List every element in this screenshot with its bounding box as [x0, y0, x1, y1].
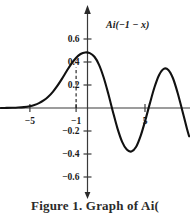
x-tick-label-neg5: −5 — [25, 116, 35, 126]
plot-background — [0, 0, 190, 200]
y-tick-label-neg0.2: −0.2 — [62, 126, 80, 136]
plot-svg: 0.6 0.4 0.2 −0.2 −0.4 −0.6 −5 −1 5 Ai(−1… — [0, 0, 190, 200]
figure-page: 0.6 0.4 0.2 −0.2 −0.4 −0.6 −5 −1 5 Ai(−1… — [0, 0, 190, 216]
y-tick-label-neg0.4: −0.4 — [62, 149, 80, 159]
y-tick-label-0.2: 0.2 — [68, 80, 80, 90]
airy-function-plot: 0.6 0.4 0.2 −0.2 −0.4 −0.6 −5 −1 5 Ai(−1… — [0, 0, 190, 200]
x-tick-label-neg1: −1 — [71, 116, 81, 126]
curve-label: Ai(−1 − x) — [105, 19, 149, 31]
y-tick-label-neg0.6: −0.6 — [62, 172, 80, 182]
y-tick-label-0.6: 0.6 — [68, 34, 80, 44]
figure-caption: Figure 1. Graph of Ai( — [0, 198, 190, 216]
